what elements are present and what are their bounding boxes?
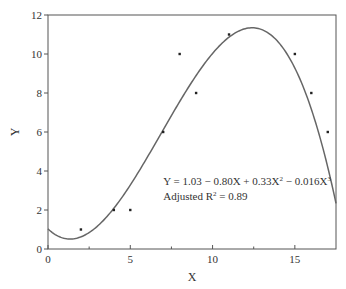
y-tick-label: 8 (37, 87, 43, 99)
y-tick-label: 10 (31, 48, 43, 60)
annotation-line: Y = 1.03 − 0.80X + 0.33X2 − 0.016X3 (163, 175, 331, 187)
data-point (129, 209, 131, 211)
fit-curve (48, 28, 336, 239)
x-tick-label: 0 (45, 253, 51, 265)
y-tick-label: 12 (31, 9, 42, 21)
y-axis: 024681012 (31, 9, 48, 255)
y-tick-label: 6 (37, 126, 43, 138)
x-axis: 051015 (45, 245, 301, 265)
y-tick-label: 2 (37, 204, 43, 216)
y-axis-label: Y (8, 127, 22, 136)
y-tick-label: 0 (37, 243, 43, 255)
x-tick-label: 5 (128, 253, 134, 265)
data-point (162, 131, 164, 133)
data-point (178, 53, 180, 55)
data-point (294, 53, 296, 55)
plot-border (48, 15, 336, 249)
equation-annotation: Y = 1.03 − 0.80X + 0.33X2 − 0.016X3Adjus… (163, 175, 331, 203)
data-point (113, 209, 115, 211)
plot-frame (48, 15, 336, 249)
data-point (310, 92, 312, 94)
data-point (228, 33, 230, 35)
x-tick-label: 15 (289, 253, 301, 265)
data-point (195, 92, 197, 94)
x-axis-label: X (188, 270, 197, 284)
y-tick-label: 4 (37, 165, 43, 177)
x-tick-label: 10 (207, 253, 219, 265)
scatter-chart: 024681012 051015 Y = 1.03 − 0.80X + 0.33… (0, 0, 346, 289)
annotation-line: Adjusted R2 = 0.89 (163, 190, 248, 202)
data-point (80, 228, 82, 230)
data-point (327, 131, 329, 133)
